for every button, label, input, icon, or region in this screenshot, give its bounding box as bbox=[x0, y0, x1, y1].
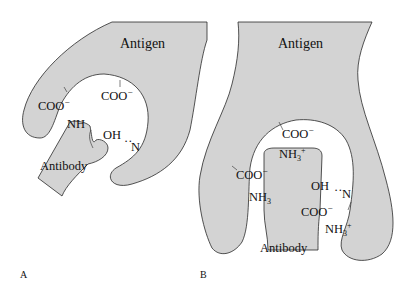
panel-b: Antigen COO− NH3+ COO− NH3 OH ·· N COO− … bbox=[199, 22, 393, 280]
panel-a-group-coo-left: COO− bbox=[38, 97, 69, 113]
panel-a-group-oh: OH bbox=[103, 128, 121, 142]
panel-b-group-n: N bbox=[342, 187, 351, 201]
antigen-antibody-diagram: Antigen COO− COO− NH OH ·· N Antibody A … bbox=[0, 0, 414, 295]
panel-a-group-n: N bbox=[131, 140, 140, 154]
panel-b-label: B bbox=[200, 269, 207, 280]
panel-b-group-coo-right: COO− bbox=[301, 203, 332, 219]
panel-b-antibody-shape bbox=[264, 148, 322, 250]
panel-b-group-coo-left: COO− bbox=[236, 166, 267, 182]
panel-a-antibody-label: Antibody bbox=[40, 159, 88, 173]
panel-b-antibody-label: Antibody bbox=[260, 241, 308, 255]
panel-a: Antigen COO− COO− NH OH ·· N Antibody A bbox=[20, 22, 207, 280]
panel-a-antigen-label: Antigen bbox=[120, 36, 165, 51]
panel-a-group-coo-top: COO− bbox=[101, 87, 132, 103]
panel-b-group-oh: OH bbox=[311, 179, 329, 193]
panel-b-antigen-label: Antigen bbox=[278, 36, 323, 51]
panel-b-group-coo-top: COO− bbox=[282, 125, 313, 141]
panel-a-group-nh: NH bbox=[67, 117, 85, 131]
panel-a-label: A bbox=[20, 269, 28, 280]
